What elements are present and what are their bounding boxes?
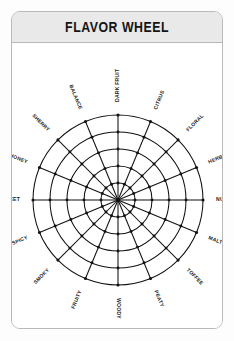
radar-grid-node: [80, 235, 83, 238]
radar-axis-label: MALTY: [208, 234, 223, 247]
radar-axis-label: NUTTY: [216, 196, 223, 202]
radar-grid-node: [93, 175, 96, 178]
radar-grid-node: [153, 162, 156, 165]
radar-grid-node: [110, 183, 113, 186]
radar-grid-node: [97, 246, 100, 249]
radar-grid-node: [85, 186, 88, 189]
radar-grid-node: [66, 199, 69, 202]
radar-grid-node: [117, 267, 120, 270]
radar-grid-node: [69, 218, 72, 221]
radar-axis-label: TOFFEE: [186, 267, 206, 287]
radar-grid-node: [164, 179, 167, 182]
radar-grid-node: [54, 225, 57, 228]
radar-grid-node: [153, 235, 156, 238]
radar-grid-node: [177, 259, 180, 262]
radar-grid-node: [143, 136, 146, 139]
radar-grid-node: [83, 199, 86, 202]
radar-chart: DARK FRUITCITRUSFLORALHERBALNUTTYMALTYTO…: [12, 43, 223, 329]
radar-grid-node: [117, 165, 120, 168]
radar-grid-node: [104, 230, 107, 233]
radar-grid-node: [136, 151, 139, 154]
radar-axis-label: CITRUS: [152, 89, 165, 110]
radar-grid-node: [117, 148, 120, 151]
radar-grid-node: [68, 247, 71, 250]
radar-grid-node: [85, 212, 88, 215]
radar-grid-node: [69, 179, 72, 182]
radar-grid-node: [93, 223, 96, 226]
radar-axis-label: HONEY: [12, 152, 29, 165]
radar-grid-node: [117, 131, 120, 134]
radar-grid-node: [148, 212, 151, 215]
radar-grid-node: [110, 214, 113, 217]
radar-axis-label: BALANCE: [68, 84, 84, 111]
radar-grid-node: [68, 150, 71, 153]
radar-spoke: [58, 140, 118, 200]
radar-grid-node: [123, 183, 126, 186]
radar-spoke: [58, 200, 118, 260]
radar-grid-node: [195, 231, 198, 234]
radar-grid-node: [132, 192, 135, 195]
radar-grid-node: [105, 187, 108, 190]
radar-grid-node: [116, 283, 119, 286]
radar-grid-node: [38, 231, 41, 234]
flavor-wheel-page: FLAVOR WHEEL DARK FRUITCITRUSFLORALHERBA…: [0, 0, 234, 341]
radar-axis-label: SPICY: [12, 234, 29, 246]
radar-grid-node: [116, 113, 119, 116]
radar-grid-node: [134, 199, 137, 202]
radar-axis-label: DARK FRUIT: [114, 68, 120, 102]
page-title: FLAVOR WHEEL: [65, 20, 169, 34]
radar-grid-node: [104, 167, 107, 170]
radar-grid-node: [129, 211, 132, 214]
radar-grid-node: [49, 199, 52, 202]
radar-grid-node: [179, 225, 182, 228]
radar-axis-label: WOODY: [116, 298, 122, 319]
radar-grid-node: [100, 199, 103, 202]
radar-grid-node: [179, 173, 182, 176]
radar-grid-node: [117, 250, 120, 253]
radar-grid-node: [84, 120, 87, 123]
radar-grid-node: [132, 205, 135, 208]
card-header: FLAVOR WHEEL: [12, 12, 222, 43]
radar-grid-node: [195, 166, 198, 169]
radar-spoke: [118, 200, 178, 260]
radar-grid-node: [164, 218, 167, 221]
radar-center-node: [116, 198, 120, 202]
radar-axis-label: SMOKY: [32, 266, 50, 284]
radar-grid-node: [117, 182, 120, 185]
radar-grid-node: [38, 166, 41, 169]
radar-grid-node: [149, 277, 152, 280]
flavor-wheel-card: FLAVOR WHEEL DARK FRUITCITRUSFLORALHERBA…: [11, 11, 223, 329]
radar-grid-node: [141, 175, 144, 178]
radar-grid-node: [56, 138, 59, 141]
radar-grid-node: [165, 247, 168, 250]
radar-axis-label: FLORAL: [185, 113, 205, 133]
radar-grid-node: [130, 167, 133, 170]
radar-grid-node: [149, 120, 152, 123]
radar-axis-label: PEATY: [153, 289, 165, 308]
radar-grid-node: [91, 136, 94, 139]
radar-grid-node: [141, 223, 144, 226]
radar-grid-node: [80, 162, 83, 165]
radar-grid-node: [54, 173, 57, 176]
radar-axis-label: FRUITY: [70, 289, 83, 310]
radar-grid-node: [117, 233, 120, 236]
radar-grid-node: [97, 151, 100, 154]
radar-axis-label: HERBAL: [207, 150, 223, 164]
card-body: DARK FRUITCITRUSFLORALHERBALNUTTYMALTYTO…: [12, 43, 222, 329]
radar-grid-node: [101, 205, 104, 208]
radar-grid-node: [177, 138, 180, 141]
radar-grid-node: [201, 198, 204, 201]
radar-grid-node: [84, 277, 87, 280]
radar-grid-node: [123, 214, 126, 217]
radar-grid-node: [136, 246, 139, 249]
radar-grid-node: [91, 261, 94, 264]
radar-grid-node: [148, 186, 151, 189]
radar-grid-node: [143, 261, 146, 264]
radar-grid-node: [151, 199, 154, 202]
radar-spoke: [118, 140, 178, 200]
radar-grid-node: [168, 199, 171, 202]
radar-grid-node: [129, 187, 132, 190]
radar-grid-node: [101, 192, 104, 195]
radar-grid-node: [56, 259, 59, 262]
radar-chart-svg: DARK FRUITCITRUSFLORALHERBALNUTTYMALTYTO…: [12, 43, 223, 329]
